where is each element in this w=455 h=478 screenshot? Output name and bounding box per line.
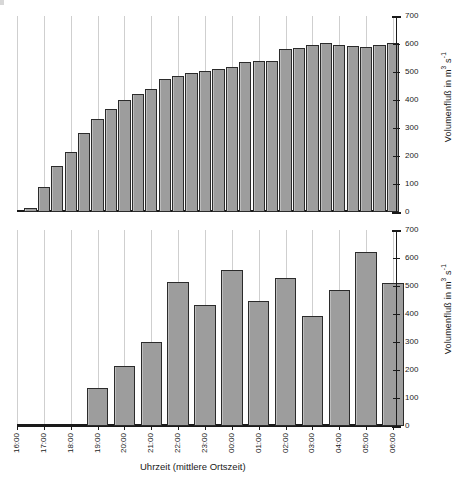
y-axis-tick-label: 600 xyxy=(405,40,418,48)
gridline xyxy=(17,230,18,426)
x-axis-tick xyxy=(286,426,287,430)
bar xyxy=(275,278,296,426)
lower-y-axis: 0100200300400500600700 xyxy=(396,230,397,426)
bar xyxy=(114,366,135,426)
bar xyxy=(172,76,184,212)
x-axis-tick-label: 20:00 xyxy=(120,433,128,453)
bar xyxy=(302,316,323,426)
bar xyxy=(65,152,77,212)
y-axis-tick xyxy=(393,370,400,371)
x-axis-tick xyxy=(151,426,152,430)
x-axis-tick xyxy=(339,426,340,430)
bar xyxy=(253,61,265,212)
x-axis-tick xyxy=(17,426,18,430)
y-axis-tick-label: 300 xyxy=(405,338,418,346)
y-axis-tick-label: 400 xyxy=(405,310,418,318)
figure-volumenfluss: 0100200300400500600700 Volumenfluß in m3… xyxy=(0,0,455,478)
x-axis-tick xyxy=(71,426,72,430)
x-axis-tick xyxy=(366,426,367,430)
lower-chart-panel: 0100200300400500600700 Volumenfluß in m3… xyxy=(0,222,455,478)
bar xyxy=(355,252,376,426)
bar xyxy=(279,49,291,212)
y-axis-tick xyxy=(393,258,400,259)
bar xyxy=(159,79,171,212)
x-axis-tick-label: 05:00 xyxy=(362,433,370,453)
y-axis-tick-label: 600 xyxy=(405,254,418,262)
bar xyxy=(185,73,197,212)
bar xyxy=(382,283,403,426)
x-axis-tick xyxy=(124,426,125,430)
bar xyxy=(212,69,224,212)
lower-plot-area xyxy=(17,230,393,426)
bar xyxy=(199,71,211,212)
y-axis-tick xyxy=(393,156,400,157)
bar xyxy=(239,62,251,212)
y-axis-tick-label: 100 xyxy=(405,180,418,188)
gridline xyxy=(44,230,45,426)
x-axis-tick xyxy=(312,426,313,430)
x-axis-tick-label: 06:00 xyxy=(389,433,397,453)
bar xyxy=(141,342,162,426)
bar xyxy=(145,89,157,212)
upper-y-axis: 0100200300400500600700 xyxy=(396,16,397,212)
y-axis-tick-label: 700 xyxy=(405,226,418,234)
x-axis-tick-label: 19:00 xyxy=(94,433,102,453)
bar xyxy=(87,388,108,426)
bar xyxy=(329,290,350,426)
y-axis-tick xyxy=(393,342,400,343)
y-axis-tick-label: 200 xyxy=(405,366,418,374)
bar xyxy=(194,305,215,426)
x-axis-tick-label: 22:00 xyxy=(174,433,182,453)
y-axis-tick xyxy=(393,44,400,45)
lower-y-axis-title: Volumenfluß in m3 s-1 xyxy=(440,264,453,354)
bar xyxy=(118,100,130,212)
bar xyxy=(306,45,318,212)
bar xyxy=(78,133,90,212)
y-axis-tick-label: 100 xyxy=(405,394,418,402)
y-axis-tick-label: 200 xyxy=(405,152,418,160)
gridline xyxy=(44,16,45,212)
x-axis-tick xyxy=(232,426,233,430)
x-axis-tick-label: 23:00 xyxy=(201,433,209,453)
x-axis-tick xyxy=(178,426,179,430)
y-axis-tick-label: 700 xyxy=(405,12,418,20)
x-axis-tick xyxy=(259,426,260,430)
bar xyxy=(51,166,63,212)
bar xyxy=(248,301,269,426)
y-axis-tick xyxy=(393,72,400,73)
y-axis-tick xyxy=(393,314,400,315)
gridline xyxy=(71,230,72,426)
y-axis-tick-label: 400 xyxy=(405,96,418,104)
y-axis-tick xyxy=(393,286,400,287)
bar xyxy=(320,43,332,212)
y-axis-tick xyxy=(392,16,401,18)
y-axis-tick-label: 500 xyxy=(405,68,418,76)
x-axis-tick-label: 00:00 xyxy=(228,433,236,453)
x-axis-tick-label: 17:00 xyxy=(40,433,48,453)
x-axis-tick-label: 02:00 xyxy=(282,433,290,453)
x-axis-tick-label: 03:00 xyxy=(308,433,316,453)
x-axis-tick xyxy=(393,426,394,430)
x-axis-tick xyxy=(98,426,99,430)
y-axis-tick xyxy=(393,100,400,101)
bar xyxy=(333,45,345,212)
x-axis-tick-label: 21:00 xyxy=(147,433,155,453)
bar xyxy=(347,46,359,212)
x-axis-tick-label: 18:00 xyxy=(67,433,75,453)
bar xyxy=(373,45,385,212)
y-axis-tick-label: 0 xyxy=(405,208,409,216)
bar xyxy=(221,270,242,426)
bar xyxy=(360,47,372,212)
y-axis-tick-label: 500 xyxy=(405,282,418,290)
y-axis-tick xyxy=(393,128,400,129)
y-axis-tick xyxy=(392,230,401,232)
upper-y-axis-title: Volumenfluß in m3 s-1 xyxy=(440,52,453,142)
y-axis-tick-label: 300 xyxy=(405,124,418,132)
bar xyxy=(266,61,278,212)
y-axis-tick xyxy=(393,184,400,185)
x-axis-tick-label: 01:00 xyxy=(255,433,263,453)
bar xyxy=(226,67,238,212)
bar xyxy=(91,119,103,212)
bar xyxy=(24,208,36,212)
x-axis-tick-label: 04:00 xyxy=(335,433,343,453)
